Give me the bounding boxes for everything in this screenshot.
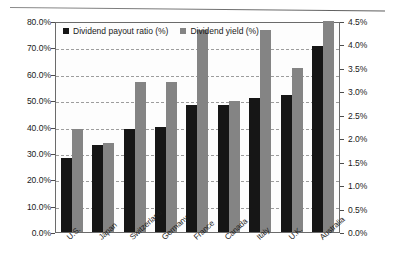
bar-group [87, 23, 118, 232]
bar-payout-ratio [61, 158, 72, 232]
y-axis-right-tick-label: 1.5% [348, 158, 367, 168]
dual-axis-bar-chart: Dividend payout ratio (%) Dividend yield… [0, 0, 395, 278]
y-axis-left-tick-label: 80.0% [3, 17, 51, 27]
bar-payout-ratio [312, 46, 323, 232]
y-axis-left-tick-label: 10.0% [3, 202, 51, 212]
y-axis-right-tick [340, 186, 344, 187]
legend-label-payout: Dividend payout ratio (%) [73, 26, 168, 36]
y-axis-right-tick-label: 4.5% [348, 17, 367, 27]
y-axis-right-tick-label: 2.0% [348, 134, 367, 144]
y-axis-right-tick-label: 4.0% [348, 40, 367, 50]
bar-dividend-yield [103, 143, 114, 232]
bar-dividend-yield [229, 101, 240, 232]
legend-item-payout-ratio: Dividend payout ratio (%) [63, 26, 168, 36]
chart-legend: Dividend payout ratio (%) Dividend yield… [63, 26, 259, 36]
legend-item-dividend-yield: Dividend yield (%) [180, 26, 259, 36]
bar-payout-ratio [218, 105, 229, 232]
y-axis-right-tick [340, 22, 344, 23]
bar-group [276, 23, 307, 232]
bar-dividend-yield [323, 21, 334, 232]
bar-dividend-yield [197, 30, 208, 232]
bar-group [119, 23, 150, 232]
y-axis-right-tick [340, 116, 344, 117]
y-axis-right-tick-label: 0.5% [348, 205, 367, 215]
y-axis-left-tick-label: 60.0% [3, 70, 51, 80]
bar-group [182, 23, 213, 232]
bar-group [213, 23, 244, 232]
bar-dividend-yield [135, 82, 146, 232]
y-axis-right-tick-label: 0.0% [348, 228, 367, 238]
legend-label-yield: Dividend yield (%) [190, 26, 259, 36]
bar-payout-ratio [249, 98, 260, 233]
bar-payout-ratio [92, 145, 103, 232]
category-axis-labels: U.S.JapanSwitzerlandGermanyFranceCanadaI… [55, 233, 340, 278]
bar-payout-ratio [281, 95, 292, 232]
y-axis-right-tick [340, 210, 344, 211]
y-axis-right-tick [340, 163, 344, 164]
y-axis-left-tick-label: 40.0% [3, 123, 51, 133]
y-axis-right-tick-label: 2.5% [348, 111, 367, 121]
bar-group [150, 23, 181, 232]
y-axis-right-tick-label: 3.5% [348, 64, 367, 74]
y-axis-right-tick [340, 233, 344, 234]
y-axis-left-tick-label: 30.0% [3, 149, 51, 159]
y-axis-right-tick [340, 139, 344, 140]
y-axis-right-tick-label: 1.0% [348, 181, 367, 191]
bar-payout-ratio [124, 129, 135, 232]
page-top-rule [10, 7, 385, 12]
bar-payout-ratio [186, 105, 197, 232]
bar-dividend-yield [260, 30, 271, 232]
y-axis-right-tick [340, 45, 344, 46]
bar-group [56, 23, 87, 232]
y-axis-left-tick-label: 50.0% [3, 96, 51, 106]
y-axis-left-tick-label: 0.0% [3, 228, 51, 238]
bar-group [308, 23, 339, 232]
y-axis-right-tick [340, 92, 344, 93]
y-axis-right-tick [340, 69, 344, 70]
y-axis-left-tick-label: 20.0% [3, 175, 51, 185]
bar-dividend-yield [166, 82, 177, 232]
legend-swatch-yield-icon [180, 28, 186, 34]
bar-dividend-yield [292, 68, 303, 232]
bar-dividend-yield [72, 129, 83, 232]
legend-swatch-payout-icon [63, 28, 69, 34]
y-axis-left-tick-label: 70.0% [3, 43, 51, 53]
plot-area [55, 22, 340, 233]
bar-group [245, 23, 276, 232]
y-axis-right-tick-label: 3.0% [348, 87, 367, 97]
bar-series-container [56, 23, 339, 232]
